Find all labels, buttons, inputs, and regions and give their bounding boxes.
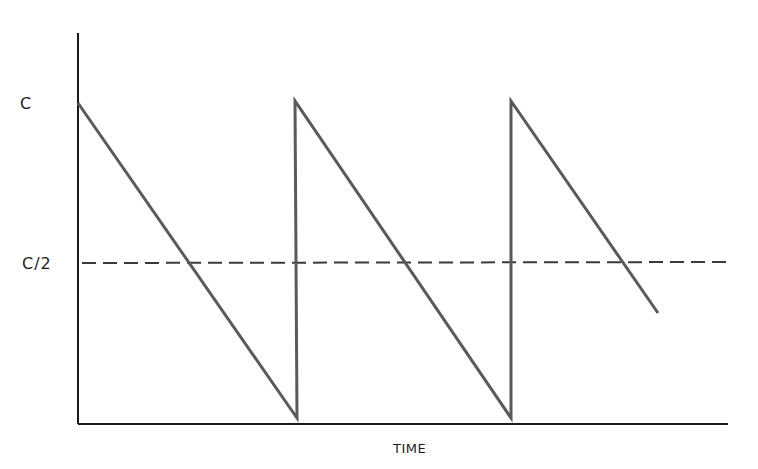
sawtooth-chart: C C/2 TIME — [0, 0, 758, 469]
x-axis-label: TIME — [393, 441, 426, 456]
y-label-c: C — [20, 94, 31, 113]
y-label-c-half: C/2 — [22, 254, 52, 273]
sawtooth-line — [78, 101, 658, 418]
chart-canvas — [0, 0, 758, 469]
